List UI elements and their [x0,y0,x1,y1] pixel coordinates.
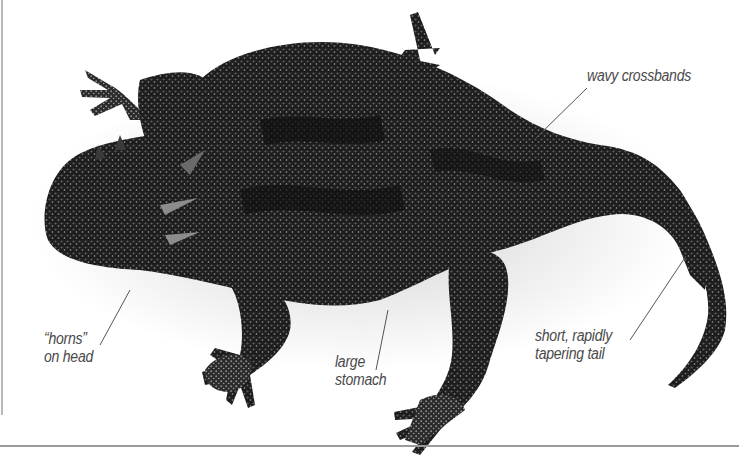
label-text: wavy crossbands [587,67,691,85]
label-text: stomach [335,371,386,389]
label-text: tapering tail [535,345,612,363]
label-text: large [335,353,386,371]
label-text: on head [44,348,93,366]
label-horns-on-head: “horns” on head [44,330,93,366]
label-large-stomach: large stomach [335,353,386,389]
label-short-tapering-tail: short, rapidly tapering tail [535,327,612,363]
bottom-rule [0,445,739,447]
label-wavy-crossbands: wavy crossbands [587,67,691,85]
label-text: short, rapidly [535,327,612,345]
label-text: “horns” [44,330,93,348]
